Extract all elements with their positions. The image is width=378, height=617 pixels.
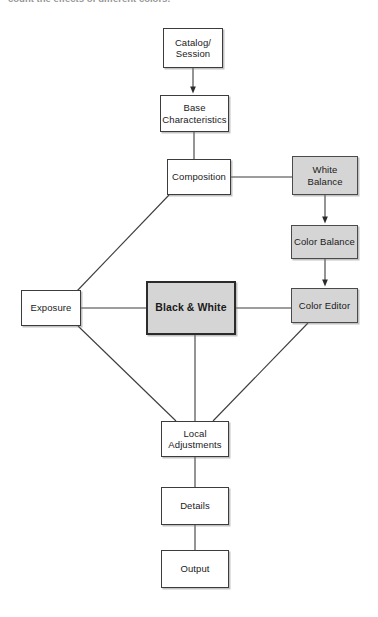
node-output-label: Output <box>180 563 209 575</box>
node-base-characteristics-label: Base Characteristics <box>162 102 226 125</box>
node-exposure-label: Exposure <box>31 302 72 314</box>
node-color-editor-label: Color Editor <box>299 300 350 312</box>
node-catalog-session-label: Catalog/ Session <box>175 37 211 60</box>
node-local-adjustments-label: Local Adjustments <box>168 428 221 451</box>
node-white-balance-label: White Balance <box>307 164 342 187</box>
edge-color-editor-to-local-adjustments <box>213 323 308 421</box>
node-local-adjustments[interactable]: Local Adjustments <box>161 421 229 457</box>
cropped-caption-text: count the effects of different colors. <box>8 0 238 5</box>
node-output[interactable]: Output <box>161 550 229 588</box>
node-color-balance[interactable]: Color Balance <box>291 225 358 259</box>
flowchart-canvas: count the effects of different colors. C… <box>0 0 378 617</box>
node-black-and-white-label: Black & White <box>155 302 226 314</box>
node-white-balance[interactable]: White Balance <box>292 156 358 195</box>
node-color-balance-label: Color Balance <box>294 236 355 248</box>
edge-exposure-to-local-adjustments <box>78 326 176 421</box>
node-details-label: Details <box>180 500 210 512</box>
node-composition-label: Composition <box>172 171 226 183</box>
node-composition[interactable]: Composition <box>167 159 231 195</box>
node-details[interactable]: Details <box>161 487 229 525</box>
edge-composition-to-exposure <box>77 195 169 291</box>
node-black-and-white[interactable]: Black & White <box>146 281 236 335</box>
node-exposure[interactable]: Exposure <box>21 290 81 326</box>
node-base-characteristics[interactable]: Base Characteristics <box>160 95 229 132</box>
node-catalog-session[interactable]: Catalog/ Session <box>163 28 223 68</box>
node-color-editor[interactable]: Color Editor <box>291 288 358 323</box>
